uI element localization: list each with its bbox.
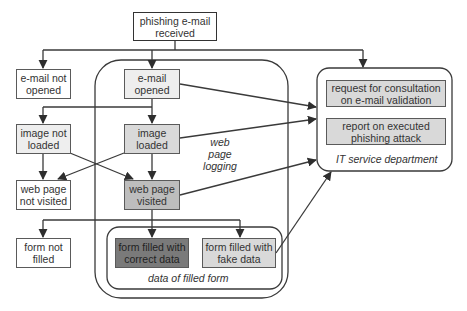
it-report-attack-node: report on executed phishing attack [326, 118, 446, 145]
web-page-logging-label: web page logging [200, 136, 240, 172]
form-correct-data-node: form filled with correct data [115, 238, 189, 268]
web-page-not-visited-node: web page not visited [16, 180, 71, 210]
email-not-opened-node: e-mail not opened [16, 69, 71, 99]
it-service-department-label: IT service department [336, 153, 438, 165]
image-not-loaded-node: image not loaded [16, 124, 71, 154]
data-of-filled-form-label: data of filled form [148, 272, 229, 284]
image-loaded-node: image loaded [124, 124, 180, 154]
phishing-email-received-node: phishing e-mail received [133, 12, 217, 41]
it-request-consultation-node: request for consultation on e-mail valid… [326, 80, 446, 107]
form-fake-data-node: form filled with fake data [202, 238, 276, 268]
form-not-filled-node: form not filled [16, 238, 71, 268]
email-opened-node: e-mail opened [124, 69, 180, 99]
web-page-visited-node: web page visited [124, 180, 180, 210]
